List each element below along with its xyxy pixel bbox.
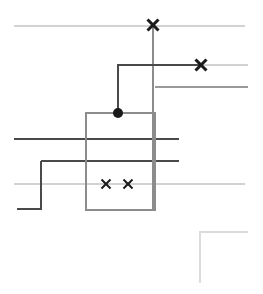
- canvas-background: [0, 0, 263, 294]
- dot-center-marker: [113, 108, 123, 118]
- diagram-canvas: [0, 0, 263, 294]
- line-diagram-svg: [0, 0, 263, 294]
